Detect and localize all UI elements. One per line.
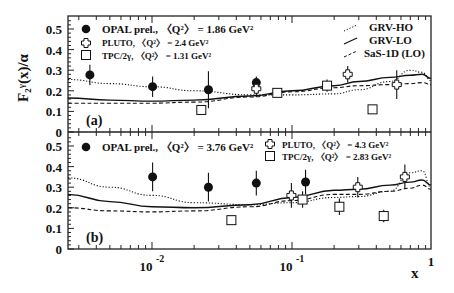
filled-circle-marker-icon: [82, 143, 91, 152]
opal-data-point: [148, 82, 157, 91]
data-points-panel-a: [85, 65, 401, 115]
data-points-panel-b: [148, 162, 409, 224]
theory-curves-panel-a: [68, 70, 431, 103]
open-square-marker-icon: [266, 152, 275, 161]
structure-function-figure: 00.10.20.30.40.500.10.20.30.40.5 10-210-…: [0, 0, 454, 293]
y-tick-label: 0.2: [46, 84, 62, 99]
y-tick-label: 0: [56, 242, 63, 257]
legend-theory: GRV-HO GRV-LO SaS-1D (LO): [344, 21, 425, 60]
tpc-data-point: [227, 216, 236, 225]
x-axis-label: x: [411, 265, 419, 281]
pluto-data-point: [343, 70, 352, 79]
pluto-data-point: [287, 191, 296, 200]
legend-grv-lo: GRV-LO: [369, 34, 412, 46]
y-tick-label: 0.1: [46, 221, 62, 236]
y-tick-label: 0.4: [46, 160, 63, 175]
tpc-data-point: [273, 88, 282, 97]
legend-pluto-a: PLUTO, 〈Q²〉 = 2.4 GeV²: [102, 38, 209, 48]
opal-data-point: [148, 172, 157, 181]
legend-sas: SaS-1D (LO): [364, 47, 425, 60]
grv-ho-curve: [68, 171, 431, 205]
x-tick-label: 10: [280, 259, 293, 274]
tpc-data-point: [197, 105, 206, 114]
legend-grv-ho: GRV-HO: [369, 21, 413, 33]
y-tick-label: 0.3: [46, 63, 63, 78]
tpc-data-point: [298, 195, 307, 204]
y-tick-labels: 00.10.20.30.40.500.10.20.30.40.5: [46, 22, 63, 257]
sas-1d-lo--curve: [68, 185, 431, 212]
legend-panel-a: OPAL prel., 〈Q²〉 = 1.86 GeV² PLUTO, 〈Q²〉…: [82, 23, 254, 61]
opal-data-point: [204, 85, 213, 94]
legend-opal-a: OPAL prel., 〈Q²〉 = 1.86 GeV²: [102, 23, 254, 35]
y-tick-label: 0.5: [46, 22, 63, 37]
pluto-data-point: [353, 183, 362, 192]
tpc-data-point: [323, 81, 332, 90]
open-cross-marker-icon: [82, 39, 91, 48]
dotted-line-icon: [344, 25, 357, 31]
y-tick-label: 0.1: [46, 104, 62, 119]
y-tick-label: 0.4: [46, 43, 63, 58]
legend-panel-b: OPAL prel., 〈Q²〉 = 3.76 GeV² PLUTO, 〈Q²〉…: [82, 140, 392, 163]
legend-tpc-b: TPC/2γ, 〈Q²〉 = 2.83 GeV²: [282, 152, 392, 162]
y-tick-label: 0.5: [46, 139, 63, 154]
opal-data-point: [204, 183, 213, 192]
y-tick-label: 0.3: [46, 180, 63, 195]
theory-curves-panel-b: [68, 171, 431, 212]
tpc-data-point: [368, 105, 377, 114]
x-tick-exponent: -1: [296, 253, 304, 264]
opal-data-point: [252, 179, 261, 188]
grv-lo-curve: [68, 180, 431, 208]
filled-circle-marker-icon: [82, 25, 91, 34]
panel-b-label: (b): [86, 230, 103, 246]
pluto-data-point: [400, 172, 409, 181]
legend-opal-b: OPAL prel., 〈Q²〉 = 3.76 GeV²: [102, 141, 254, 153]
x-tick-exponent: -2: [156, 253, 164, 264]
panel-a-label: (a): [86, 113, 103, 129]
opal-data-point: [85, 70, 94, 79]
open-square-marker-icon: [82, 51, 91, 60]
legend-tpc-a: TPC/2γ, 〈Q²〉 = 1.31 GeV²: [102, 51, 212, 61]
tpc-data-point: [335, 202, 344, 211]
x-tick-labels: 10-210-11: [140, 253, 435, 274]
grv-ho-curve: [68, 70, 431, 95]
legend-pluto-b: PLUTO, 〈Q²〉 = 4.3 GeV²: [282, 140, 389, 150]
y-axis-label: F₂ᵞ(x)/α: [15, 53, 32, 102]
pluto-data-point: [392, 80, 401, 89]
x-tick-label: 1: [428, 254, 435, 269]
grv-lo-curve: [68, 74, 431, 101]
solid-line-icon: [344, 38, 357, 44]
x-tick-label: 10: [140, 259, 153, 274]
y-tick-label: 0.2: [46, 201, 62, 216]
dashed-line-icon: [344, 51, 357, 57]
svg-text:F₂ᵞ(x)/α: F₂ᵞ(x)/α: [15, 53, 32, 102]
tpc-data-point: [379, 212, 388, 221]
opal-data-point: [301, 178, 310, 187]
y-tick-label: 0: [56, 125, 63, 140]
open-cross-marker-icon: [266, 140, 275, 149]
